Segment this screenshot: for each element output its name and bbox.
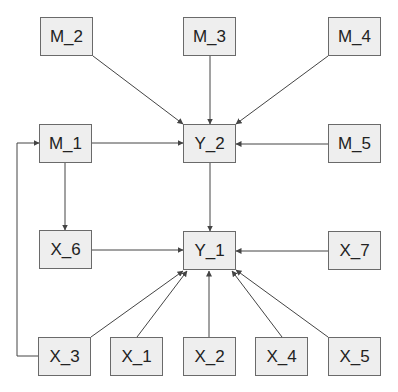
path-diagram: M_2 M_3 M_4 M_1 Y_2 M_5 X_6 Y_1 X_7 X_3 … [0, 0, 398, 392]
edge-X_3-Y_1 [91, 271, 183, 337]
node-M_2: M_2 [40, 17, 93, 56]
edge-M_2-Y_2 [93, 56, 183, 124]
node-X_1: X_1 [110, 337, 163, 376]
edge-X_3-M_1 [17, 143, 39, 356]
node-Y_2: Y_2 [183, 124, 236, 163]
node-X_4: X_4 [255, 337, 308, 376]
edge-X_5-Y_1 [236, 270, 328, 337]
node-X_7: X_7 [328, 231, 381, 270]
node-M_4: M_4 [328, 17, 381, 56]
node-X_5: X_5 [328, 337, 381, 376]
edge-X_1-Y_1 [137, 271, 187, 337]
node-Y_1: Y_1 [183, 231, 236, 270]
edge-X_4-Y_1 [232, 271, 282, 337]
node-M_5: M_5 [328, 124, 381, 163]
node-M_1: M_1 [39, 124, 92, 163]
edge-M_4-Y_2 [236, 56, 328, 124]
edges-layer [0, 0, 398, 392]
node-X_6: X_6 [39, 230, 92, 269]
node-X_3: X_3 [38, 337, 91, 376]
node-M_3: M_3 [183, 17, 236, 56]
node-X_2: X_2 [183, 337, 236, 376]
